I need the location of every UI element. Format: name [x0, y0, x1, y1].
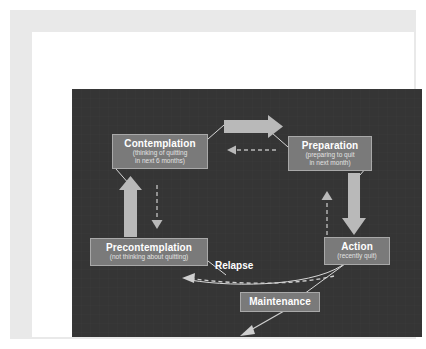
stage-title-preparation: Preparation	[295, 140, 365, 151]
stage-box-maintenance[interactable]: Maintenance	[240, 292, 320, 312]
stage-box-action[interactable]: Action (recently quit)	[324, 237, 390, 265]
figure-inner-mat: Contemplation (thinking of quitting in n…	[32, 32, 414, 337]
arrow-preparation-to-contemplation	[227, 146, 276, 155]
stage-subtitle-precontemplation-line1: (not thinking about quitting)	[97, 253, 201, 261]
stage-box-preparation[interactable]: Preparation (preparing to quit in next m…	[288, 136, 372, 171]
stage-title-precontemplation: Precontemplation	[97, 242, 201, 253]
arrow-contemplation-to-precontemplation	[152, 185, 163, 229]
stage-box-contemplation[interactable]: Contemplation (thinking of quitting in n…	[112, 134, 208, 169]
relapse-label: Relapse	[215, 260, 253, 271]
figure-frame: Contemplation (thinking of quitting in n…	[0, 0, 426, 349]
stage-subtitle-action-line1: (recently quit)	[331, 252, 383, 260]
arrow-action-to-preparation	[322, 191, 333, 235]
stage-title-maintenance: Maintenance	[247, 296, 313, 307]
arrow-preparation-to-action	[342, 173, 366, 235]
arrow-precontemplation-to-contemplation	[119, 176, 142, 237]
stage-subtitle-preparation-line1: (preparing to quit	[295, 151, 365, 159]
stage-box-precontemplation[interactable]: Precontemplation (not thinking about qui…	[90, 238, 208, 266]
stage-subtitle-preparation-line2: in next month)	[295, 159, 365, 167]
stage-title-contemplation: Contemplation	[119, 138, 201, 149]
stages-of-change-diagram: Contemplation (thinking of quitting in n…	[72, 89, 422, 337]
stage-subtitle-contemplation-line2: in next 6 months)	[119, 157, 201, 165]
stage-subtitle-contemplation-line1: (thinking of quitting	[119, 149, 201, 157]
arrow-maintenance-exit	[240, 311, 284, 336]
stage-title-action: Action	[331, 241, 383, 252]
figure-outer-mat: Contemplation (thinking of quitting in n…	[10, 10, 416, 339]
